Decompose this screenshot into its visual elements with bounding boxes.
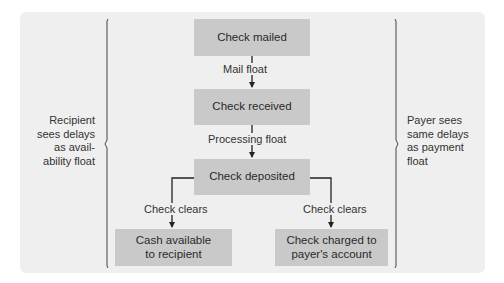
left-annotation: Recipient sees delays as avail- ability …	[37, 114, 95, 168]
arrowhead-icon	[328, 222, 334, 228]
arrowhead-icon	[249, 82, 255, 88]
node-check-deposited: Check deposited	[194, 159, 310, 195]
annotation-line: Recipient	[37, 114, 95, 128]
annotation-line: float	[407, 155, 469, 169]
edge-label-check-clears-left: Check clears	[143, 203, 209, 215]
arrowhead-icon	[169, 222, 175, 228]
annotation-line: same delays	[407, 128, 469, 142]
right-brace-icon	[395, 19, 398, 268]
node-label-line1: Cash available	[136, 234, 211, 248]
edge-label-check-clears-right: Check clears	[302, 203, 368, 215]
node-label: Check received	[212, 100, 291, 114]
annotation-line: as avail-	[37, 141, 95, 155]
arrowhead-icon	[249, 152, 255, 158]
left-brace-icon	[105, 19, 108, 268]
node-label-line2: payer's account	[291, 248, 371, 262]
edge-label-processing-float: Processing float	[207, 133, 287, 145]
edge-label-mail-float: Mail float	[222, 63, 268, 75]
node-check-mailed: Check mailed	[194, 19, 310, 56]
node-cash-available: Cash available to recipient	[115, 229, 232, 266]
node-label-line2: to recipient	[145, 248, 201, 262]
annotation-line: ability float	[37, 155, 95, 169]
node-check-charged: Check charged to payer's account	[275, 229, 388, 266]
node-check-received: Check received	[194, 89, 310, 125]
annotation-line: as payment	[407, 141, 469, 155]
annotation-line: sees delays	[37, 128, 95, 142]
node-label: Check mailed	[217, 31, 287, 45]
annotation-line: Payer sees	[407, 114, 469, 128]
right-annotation: Payer sees same delays as payment float	[407, 114, 469, 168]
node-label-line1: Check charged to	[286, 234, 376, 248]
node-label: Check deposited	[209, 170, 295, 184]
